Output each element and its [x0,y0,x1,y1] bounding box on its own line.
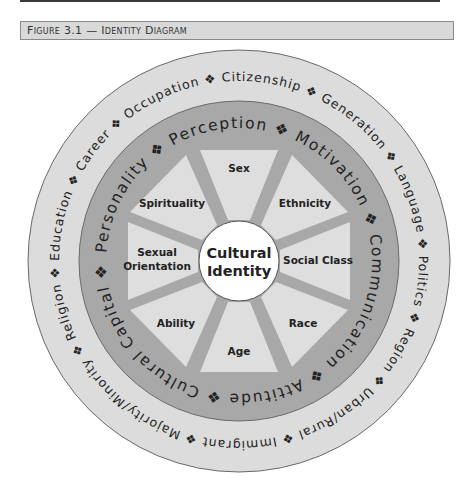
label-sex: Sex [228,162,250,174]
label-race: Race [289,317,318,329]
label-social-class: Social Class [283,254,353,266]
label-ability: Ability [157,317,195,329]
label-ethnicity: Ethnicity [279,197,332,209]
label-age: Age [228,345,251,357]
center-label-line2: Identity [207,263,272,279]
center-circle [199,221,279,301]
identity-diagram: Education ❖ Career ❖ Occupation ❖ Citize… [0,0,472,489]
label-sexual-orientation-line1: Sexual [137,246,177,258]
label-spirituality: Spirituality [139,197,205,209]
label-sexual-orientation-line2: Orientation [123,260,191,272]
center-label-line1: Cultural [206,245,271,261]
